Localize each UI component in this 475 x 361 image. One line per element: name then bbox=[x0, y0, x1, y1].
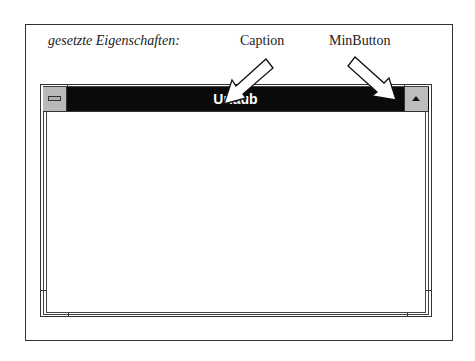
minbutton-arrow-icon bbox=[348, 57, 396, 100]
caption-arrow-icon bbox=[224, 59, 273, 104]
annotation-arrows bbox=[0, 0, 475, 361]
